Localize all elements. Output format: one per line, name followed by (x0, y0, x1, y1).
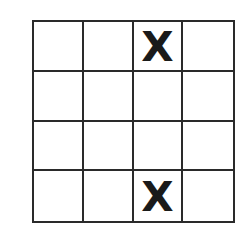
grid-cell-r4c2[interactable] (84, 171, 134, 221)
grid-cell-r1c1[interactable] (34, 22, 84, 72)
grid-cell-r2c4[interactable] (183, 72, 233, 122)
game-board-grid: X X (32, 20, 235, 223)
grid-cell-r2c3[interactable] (134, 72, 184, 122)
x-mark-icon: X (141, 177, 173, 217)
grid-cell-r2c1[interactable] (34, 72, 84, 122)
grid-cell-r4c3[interactable]: X (134, 171, 184, 221)
grid-cell-r4c4[interactable] (183, 171, 233, 221)
grid-cell-r3c2[interactable] (84, 122, 134, 172)
x-mark-icon: X (141, 27, 173, 67)
grid-cell-r3c1[interactable] (34, 122, 84, 172)
grid-cell-r2c2[interactable] (84, 72, 134, 122)
grid-cell-r1c4[interactable] (183, 22, 233, 72)
grid-cell-r1c3[interactable]: X (134, 22, 184, 72)
grid-cell-r3c4[interactable] (183, 122, 233, 172)
grid-cell-r4c1[interactable] (34, 171, 84, 221)
grid-cell-r3c3[interactable] (134, 122, 184, 172)
grid-cell-r1c2[interactable] (84, 22, 134, 72)
